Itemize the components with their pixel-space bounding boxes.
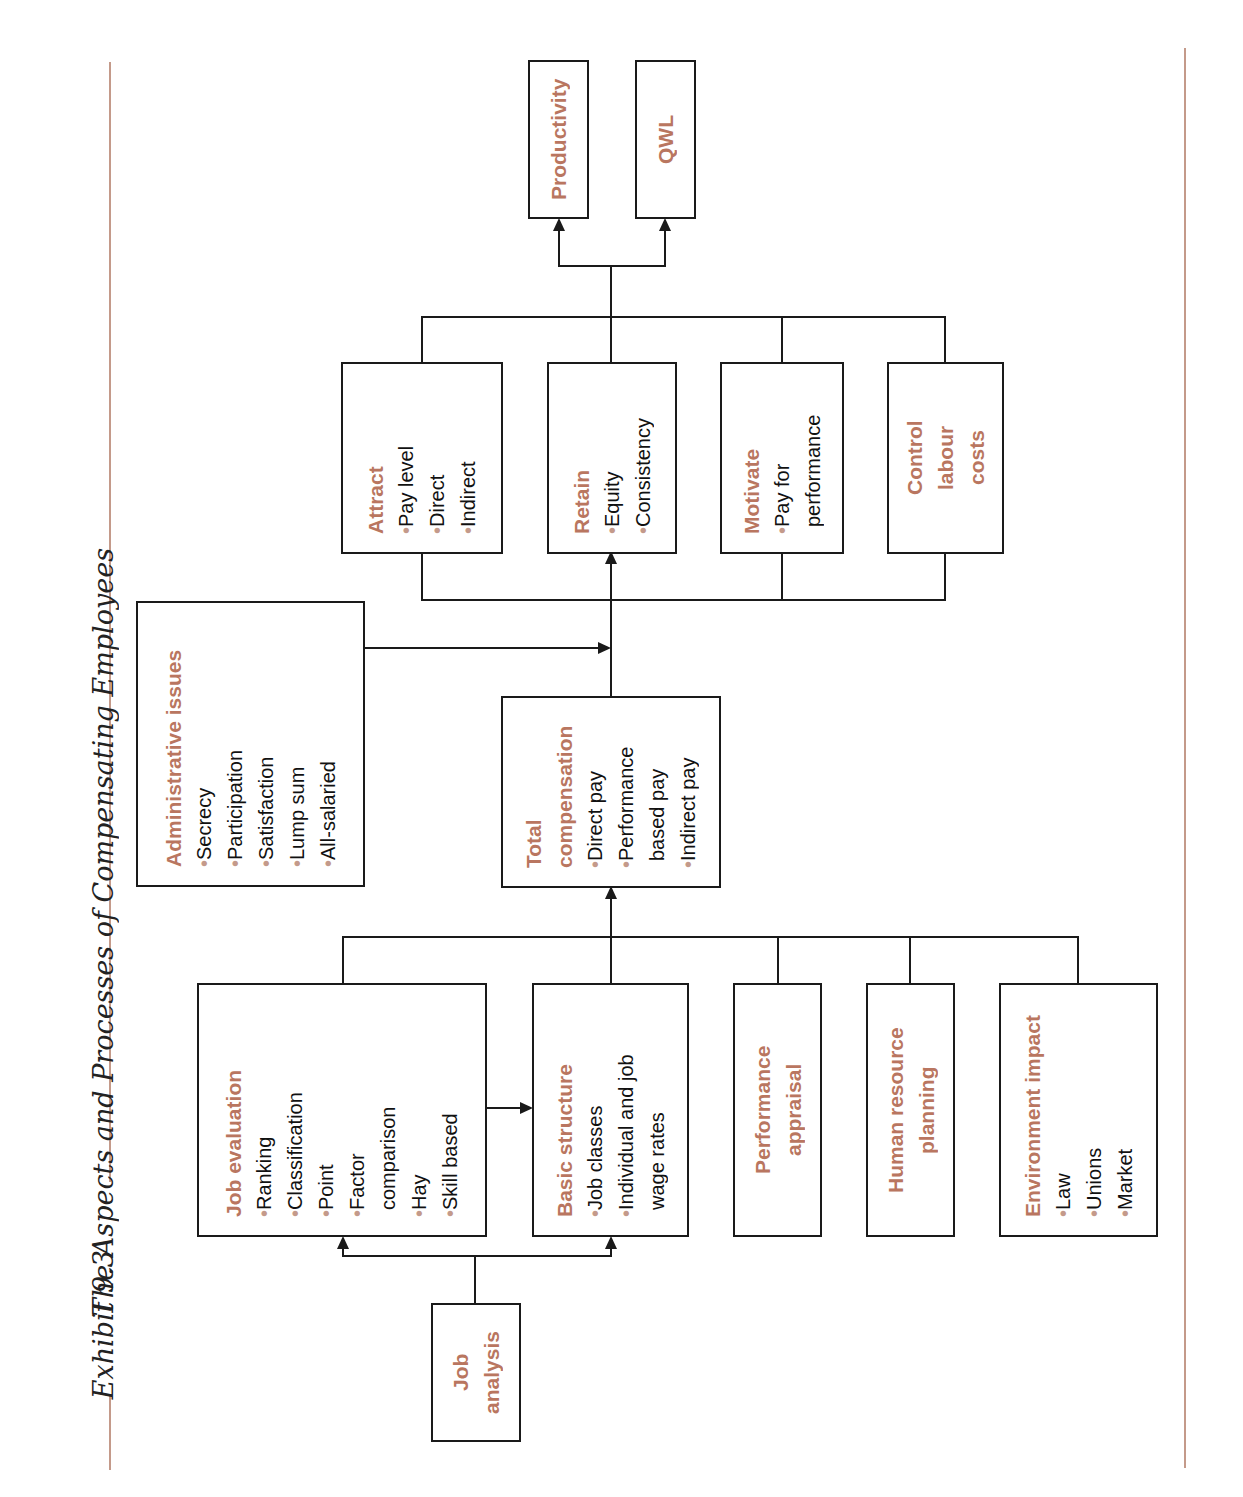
connector [909,936,911,984]
list-item: •Indirect [453,382,484,534]
node-basic-structure: Basic structure •Job classes •Individual… [532,983,689,1237]
node-title: Environment impact [1017,1003,1048,1217]
node-title: Job evaluation [218,1003,249,1217]
list-item: •Job classes [580,1003,611,1217]
arrow-up-icon [337,1236,349,1249]
connector [364,647,600,649]
list-item: •Unions [1079,1003,1110,1217]
arrow-up-icon [659,218,671,231]
connector [342,1248,344,1257]
connector [342,1255,612,1257]
connector [558,228,560,266]
node-job-analysis: Job analysis [431,1303,521,1442]
node-performance-appraisal: Performance appraisal [733,983,822,1237]
connector [781,552,783,600]
arrow-up-icon [605,1236,617,1249]
node-title: Basic structure [549,1003,580,1217]
list-item: •Satisfaction [251,621,282,867]
list-item: •Performance based pay [611,716,673,868]
arrow-right-icon [598,642,611,654]
connector [486,1107,520,1109]
node-title: Job analysis [445,1323,507,1422]
list-item: •Indirect pay [673,716,704,868]
right-rule [1184,48,1186,1468]
connector [421,316,946,318]
node-title: Control labour costs [899,382,992,534]
connector [610,1248,612,1257]
node-title: QWL [650,62,681,217]
node-qwl: QWL [635,60,696,219]
connector [558,265,666,267]
left-rule-bottom [109,1395,111,1470]
list-item: •Pay for performance [767,382,829,534]
node-title: Total compensation [518,716,580,868]
connector [777,936,779,984]
node-title: Motivate [736,382,767,534]
connector [421,552,423,600]
node-job-evaluation: Job evaluation •Ranking •Classification … [197,983,487,1237]
connector [610,265,612,317]
list-item: •Classification [280,1003,311,1217]
list-item: •Consistency [628,382,659,534]
node-retain: Retain •Equity •Consistency [547,362,677,554]
exhibit-title: The Aspects and Processes of Compensatin… [88,548,119,1316]
list-item: •Ranking [249,1003,280,1217]
node-productivity: Productivity [528,60,589,219]
list-item: •All-salaried [313,621,344,867]
node-attract: Attract •Pay level •Direct •Indirect [341,362,503,554]
connector [610,560,612,600]
connector [610,895,612,937]
list-item: •Equity [597,382,628,534]
list-item: •Lump sum [282,621,313,867]
node-title: Productivity [543,62,574,217]
connector [474,1255,476,1305]
node-title: Performance appraisal [747,1003,809,1217]
node-title: Retain [566,382,597,534]
list-item: •Law [1048,1003,1079,1217]
node-total-compensation: Total compensation •Direct pay •Performa… [501,696,721,888]
list-item: •Skill based [435,1003,466,1217]
list-item: •Individual and job wage rates [611,1003,673,1217]
list-item: •Participation [220,621,251,867]
connector [610,316,612,364]
list-item: •Point [311,1003,342,1217]
connector [944,316,946,364]
node-hr-planning: Human resource planning [866,983,955,1237]
connector [664,228,666,266]
connector [1077,936,1079,984]
arrow-up-icon [553,218,565,231]
connector [944,552,946,600]
list-item: •Market [1110,1003,1141,1217]
node-motivate: Motivate •Pay for performance [720,362,844,554]
node-title: Attract [360,382,391,534]
node-control-labour-costs: Control labour costs [887,362,1004,554]
connector [342,936,344,984]
connector [781,316,783,364]
connector [421,316,423,364]
connector [342,936,1079,938]
list-item: •Secrecy [189,621,220,867]
node-title: Human resource planning [880,1003,942,1217]
node-title: Administrative issues [158,621,189,867]
list-item: •Hay [404,1003,435,1217]
list-item: •Factor comparison [342,1003,404,1217]
list-item: •Pay level [391,382,422,534]
connector [421,599,946,601]
node-environment-impact: Environment impact •Law •Unions •Market [999,983,1158,1237]
node-administrative-issues: Administrative issues •Secrecy •Particip… [136,601,365,887]
connector [610,936,612,984]
list-item: •Direct [422,382,453,534]
list-item: •Direct pay [580,716,611,868]
